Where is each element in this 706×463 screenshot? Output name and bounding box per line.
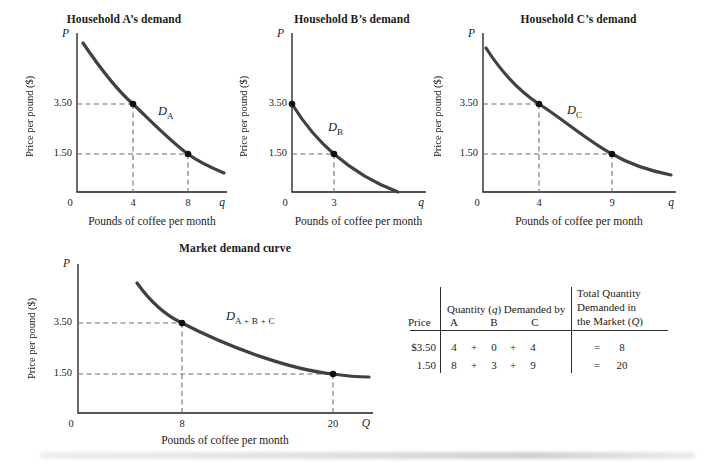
market-point-8-350	[179, 320, 186, 327]
chart-a-curve-subscript: A	[167, 111, 174, 121]
demand-figure: Household A’s demand P Price per pound (…	[0, 0, 706, 463]
quantity-header-pre: Quantity (	[447, 303, 492, 315]
market-origin-tick: 0	[61, 418, 81, 429]
chart-c-price-tick-350: 3.50	[444, 97, 478, 108]
chart-b-curve-letter: D	[328, 120, 337, 134]
row1-qty-a: 4	[447, 341, 461, 353]
chart-a-q-axis-symbol: q	[212, 196, 232, 208]
chart-c-q-axis-symbol: q	[661, 196, 681, 208]
chart-a-x-tick-8: 8	[178, 197, 198, 208]
market-p-axis-symbol: P	[63, 257, 70, 269]
market-q-axis-symbol: Q	[356, 417, 376, 429]
chart-a-p-axis-symbol: P	[62, 27, 69, 39]
chart-b-curve-subscript: B	[337, 127, 343, 137]
table-total-header-line1: Total Quantity	[577, 287, 641, 299]
table-total-header-line3: the Market (Q)	[577, 315, 643, 327]
chart-c-curve-letter: D	[567, 103, 576, 117]
chart-c-dashed-guides	[483, 104, 612, 192]
row1-qty-c: 4	[526, 341, 540, 353]
table-price-header: Price	[408, 316, 431, 328]
row2-qty-a: 8	[447, 359, 461, 371]
chart-b-p-axis-symbol: P	[277, 27, 284, 39]
chart-b-price-tick-350: 3.50	[253, 97, 287, 108]
chart-household-a: Household A’s demand P Price per pound (…	[0, 0, 235, 238]
row1-total: 8	[611, 341, 633, 353]
market-demand-curve	[137, 283, 369, 377]
chart-c-origin-tick: 0	[467, 197, 487, 208]
row2-total: 20	[611, 359, 633, 371]
chart-a-price-tick-150: 1.50	[38, 147, 72, 158]
chart-a-point-4-350	[130, 101, 137, 108]
market-chart-canvas	[0, 238, 400, 463]
chart-c-y-axis-label: Price per pound ($)	[432, 36, 446, 196]
chart-a-axes	[77, 33, 227, 192]
market-curve-label: DA + B + C	[226, 309, 275, 326]
table-quantity-group-header: Quantity (q) Demanded by	[447, 303, 565, 315]
chart-b-title: Household B’s demand	[252, 13, 452, 25]
chart-c-x-tick-4: 4	[529, 197, 549, 208]
market-chart-axes	[78, 264, 373, 413]
chart-c-title: Household C’s demand	[476, 13, 681, 25]
chart-c-p-axis-symbol: P	[468, 27, 475, 39]
table-col-header-a: A	[447, 316, 461, 328]
chart-a-curve-letter: D	[158, 104, 167, 118]
chart-b-point-0-350	[289, 101, 296, 108]
market-price-tick-350: 3.50	[38, 316, 72, 327]
total-header-pre: the Market (	[577, 315, 631, 327]
chart-a-x-axis-caption: Pounds of coffee per month	[42, 215, 262, 227]
chart-a-point-8-150	[185, 151, 192, 158]
chart-c-point-9-150	[609, 151, 616, 158]
quantity-demanded-table: Quantity (q) Demanded by Price A B C Tot…	[400, 282, 706, 392]
chart-b-origin-tick: 0	[275, 197, 295, 208]
cropped-text-artifact	[40, 452, 695, 459]
chart-a-price-tick-350: 3.50	[38, 97, 72, 108]
chart-b-dashed-guides	[292, 154, 334, 192]
chart-c-curve-subscript: C	[576, 110, 582, 120]
chart-c-x-axis-caption: Pounds of coffee per month	[470, 215, 688, 227]
table-header-rule	[410, 330, 668, 331]
table-col-header-b: B	[487, 316, 501, 328]
chart-a-curve-label: DA	[158, 104, 174, 121]
total-header-post: )	[639, 315, 643, 327]
market-curve-subscript: A + B + C	[235, 316, 275, 326]
table-total-header-line2: Demanded in	[577, 301, 636, 313]
chart-a-title: Household A’s demand	[14, 13, 234, 25]
quantity-header-post: ) Demanded by	[497, 303, 565, 315]
market-x-tick-20: 20	[323, 418, 343, 429]
chart-b-x-tick-3: 3	[324, 197, 344, 208]
row1-equals: =	[590, 341, 604, 353]
row2-qty-b: 3	[487, 359, 501, 371]
chart-b-point-3-150	[331, 151, 338, 158]
chart-c-curve-label: DC	[567, 103, 582, 120]
market-x-axis-caption: Pounds of coffee per month	[115, 434, 335, 446]
chart-b-curve-label: DB	[328, 120, 343, 137]
row1-price: $3.50	[400, 341, 436, 353]
chart-c-point-4-350	[536, 101, 543, 108]
market-chart-title: Market demand curve	[135, 242, 335, 254]
chart-c-x-tick-9: 9	[602, 197, 622, 208]
row1-plus-2: +	[506, 341, 520, 353]
row2-price: 1.50	[400, 359, 436, 371]
chart-market-demand: Market demand curve P Price per pound ($…	[0, 238, 400, 463]
market-curve-letter: D	[226, 309, 235, 323]
chart-household-c: Household C’s demand P Price per pound (…	[440, 0, 706, 238]
chart-b-axes	[292, 33, 426, 192]
chart-household-b: Household B’s demand P Price per pound (…	[235, 0, 440, 238]
row2-qty-c: 9	[526, 359, 540, 371]
row2-equals: =	[590, 359, 604, 371]
chart-b-x-axis-caption: Pounds of coffee per month	[251, 215, 466, 227]
chart-a-x-tick-4: 4	[123, 197, 143, 208]
table-col-header-c: C	[528, 316, 542, 328]
row2-plus-2: +	[506, 359, 520, 371]
market-y-axis-label: Price per pound ($)	[26, 263, 40, 413]
market-price-tick-150: 1.50	[38, 367, 72, 378]
row1-qty-b: 0	[487, 341, 501, 353]
chart-b-q-axis-symbol: q	[411, 196, 431, 208]
chart-b-y-axis-label: Price per pound ($)	[238, 36, 252, 196]
chart-b-demand-curve	[292, 104, 398, 192]
row2-plus-1: +	[467, 359, 481, 371]
market-x-tick-8: 8	[172, 418, 192, 429]
row1-plus-1: +	[467, 341, 481, 353]
chart-a-origin-tick: 0	[60, 197, 80, 208]
chart-a-y-axis-label: Price per pound ($)	[24, 36, 38, 196]
